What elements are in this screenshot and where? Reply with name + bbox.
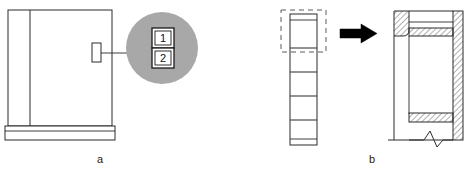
strip-outline	[290, 14, 317, 145]
figure-root: 1 2 a	[0, 0, 470, 172]
section-top-flange-hatched	[409, 28, 453, 36]
segmented-profile-strip	[290, 14, 317, 145]
section-right-wall-hatched	[453, 11, 463, 140]
transformation-arrow	[340, 24, 377, 43]
callout-item-2: 2	[152, 48, 174, 68]
panel-b-caption: b	[369, 153, 375, 165]
arrow-shape	[340, 24, 377, 43]
section-left-wall-hatched	[394, 11, 409, 36]
base-plinth	[5, 126, 115, 140]
panel-a-group: 1 2 a	[5, 10, 198, 165]
cabinet-body	[8, 10, 112, 126]
cabinet-front-elevation	[5, 10, 115, 140]
callout-item-2-label: 2	[160, 52, 166, 64]
zigzag-break-line	[409, 131, 453, 147]
panel-a-caption: a	[97, 153, 104, 165]
callout-item-1: 1	[152, 28, 174, 48]
panel-b-group: b	[281, 10, 463, 165]
callout-item-1-label: 1	[160, 32, 166, 44]
detail-view-circle: 1 2	[126, 12, 198, 84]
component-location-marker	[92, 43, 101, 62]
figure-canvas: 1 2 a	[0, 0, 470, 172]
cross-section-detail-view	[388, 11, 463, 147]
section-bottom-flange-hatched	[409, 113, 453, 122]
